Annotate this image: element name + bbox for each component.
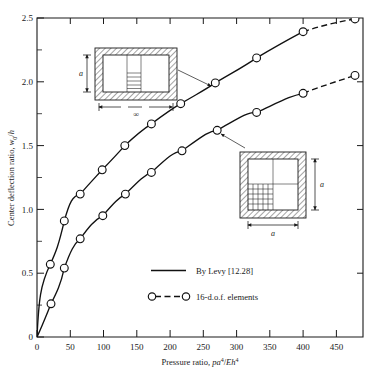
square-plate-inset-height-label: a bbox=[320, 180, 324, 189]
x-axis-title-exp2: 4 bbox=[236, 357, 239, 363]
svg-text:Pressure ratio, pa4/Eh4: Pressure ratio, pa4/Eh4 bbox=[161, 357, 238, 367]
x-ticklabel-8: 400 bbox=[296, 342, 310, 352]
data-point bbox=[46, 260, 54, 268]
data-point bbox=[76, 235, 84, 243]
plot-canvas: 0 0.5 1.0 1.5 2.0 2.5 0 50 100 150 200 2… bbox=[0, 0, 381, 383]
data-point bbox=[98, 166, 106, 174]
data-point bbox=[99, 212, 107, 220]
y-axis-title-h: h bbox=[6, 130, 16, 134]
x-ticklabel-2: 100 bbox=[97, 342, 111, 352]
infinite-strip-inset-height-label: a bbox=[79, 69, 83, 78]
data-point bbox=[299, 28, 307, 36]
x-ticklabel-3: 150 bbox=[130, 342, 144, 352]
data-point bbox=[211, 79, 219, 87]
data-point bbox=[148, 169, 156, 177]
data-point bbox=[121, 142, 129, 150]
legend-label-elements: 16-d.o.f. elements bbox=[196, 292, 259, 302]
x-axis-title-lead: Pressure ratio, bbox=[161, 357, 212, 367]
data-point bbox=[60, 217, 68, 225]
x-ticklabel-1: 50 bbox=[66, 342, 76, 352]
x-ticklabel-9: 450 bbox=[330, 342, 344, 352]
legend-label-levy: By Levy [12.28] bbox=[196, 266, 253, 276]
data-point bbox=[253, 109, 261, 117]
data-point bbox=[177, 100, 185, 108]
y-ticklabel-1: 0.5 bbox=[22, 268, 34, 278]
x-ticklabel-7: 350 bbox=[263, 342, 277, 352]
square-plate-inset-width-label: a bbox=[271, 229, 275, 238]
x-ticklabel-6: 300 bbox=[230, 342, 244, 352]
y-ticklabel-2: 1.0 bbox=[22, 205, 34, 215]
infinite-strip-inset-width-label: ∞ bbox=[133, 110, 139, 119]
data-point bbox=[178, 147, 186, 155]
x-ticklabel-4: 200 bbox=[163, 342, 177, 352]
y-axis-title-lead: Center deflection ratio, bbox=[6, 145, 16, 226]
data-point bbox=[299, 89, 307, 97]
data-point bbox=[47, 300, 55, 308]
figure-container: 0 0.5 1.0 1.5 2.0 2.5 0 50 100 150 200 2… bbox=[0, 0, 381, 383]
y-ticklabel-0: 0 bbox=[29, 332, 34, 342]
x-axis-title: Pressure ratio, pa4/Eh4 bbox=[161, 357, 238, 367]
data-point bbox=[148, 120, 156, 128]
x-ticklabel-5: 250 bbox=[197, 342, 211, 352]
data-point bbox=[253, 54, 261, 62]
y-ticklabel-3: 1.5 bbox=[22, 141, 34, 151]
data-point bbox=[213, 126, 221, 134]
x-ticklabel-0: 0 bbox=[35, 342, 40, 352]
data-point bbox=[76, 190, 84, 198]
data-point bbox=[60, 264, 68, 272]
data-point bbox=[122, 190, 130, 198]
figure-background bbox=[0, 0, 381, 383]
y-ticklabel-5: 2.5 bbox=[22, 13, 34, 23]
y-ticklabel-4: 2.0 bbox=[22, 77, 34, 87]
data-point bbox=[351, 72, 359, 80]
